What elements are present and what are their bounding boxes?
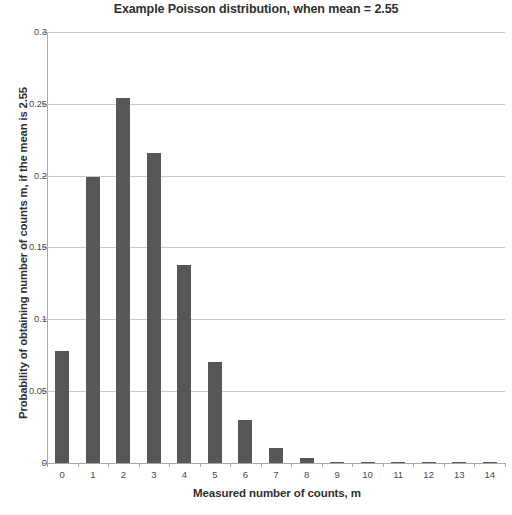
x-tick-mark [139, 463, 140, 467]
y-tick-label: 0 [7, 458, 47, 468]
x-tick-label: 4 [169, 469, 199, 480]
x-tick-mark [200, 463, 201, 467]
x-tick-label: 0 [47, 469, 77, 480]
x-tick-mark [230, 463, 231, 467]
x-tick-label: 8 [292, 469, 322, 480]
x-tick-mark [47, 463, 48, 467]
x-tick-label: 10 [353, 469, 383, 480]
y-axis-ticks: 00.050.10.150.20.250.3 [0, 32, 47, 464]
x-tick-label: 7 [261, 469, 291, 480]
x-tick-label: 11 [383, 469, 413, 480]
x-axis-title: Measured number of counts, m [46, 487, 508, 499]
x-tick-label: 6 [230, 469, 260, 480]
x-tick-label: 2 [108, 469, 138, 480]
bar [147, 153, 161, 463]
gridline [47, 32, 505, 33]
poisson-bar-chart: Example Poisson distribution, when mean … [0, 0, 512, 515]
x-tick-mark [474, 463, 475, 467]
y-tick-label: 0.05 [7, 386, 47, 396]
y-tick-label: 0.1 [7, 314, 47, 324]
x-tick-mark [261, 463, 262, 467]
bar [55, 351, 69, 463]
x-tick-label: 13 [444, 469, 474, 480]
bar [269, 448, 283, 464]
bar [238, 420, 252, 463]
x-tick-mark [383, 463, 384, 467]
x-tick-mark [505, 463, 506, 467]
bar [116, 98, 130, 463]
x-tick-mark [413, 463, 414, 467]
plot-area [47, 32, 505, 464]
y-tick-label: 0.2 [7, 171, 47, 181]
x-tick-label: 9 [322, 469, 352, 480]
y-tick-label: 0.25 [7, 99, 47, 109]
x-tick-mark [444, 463, 445, 467]
x-tick-mark [108, 463, 109, 467]
x-axis-ticks: 01234567891011121314 [47, 463, 505, 489]
y-tick-label: 0.3 [7, 27, 47, 37]
x-tick-label: 3 [139, 469, 169, 480]
chart-title: Example Poisson distribution, when mean … [0, 2, 512, 16]
x-tick-label: 1 [78, 469, 108, 480]
y-tick-label: 0.15 [7, 242, 47, 252]
bar [208, 362, 222, 463]
x-tick-label: 5 [200, 469, 230, 480]
x-tick-mark [322, 463, 323, 467]
x-tick-label: 12 [414, 469, 444, 480]
x-tick-mark [291, 463, 292, 467]
bar [86, 177, 100, 463]
x-tick-mark [169, 463, 170, 467]
bar [177, 265, 191, 463]
x-tick-mark [78, 463, 79, 467]
x-tick-label: 14 [475, 469, 505, 480]
x-tick-mark [352, 463, 353, 467]
